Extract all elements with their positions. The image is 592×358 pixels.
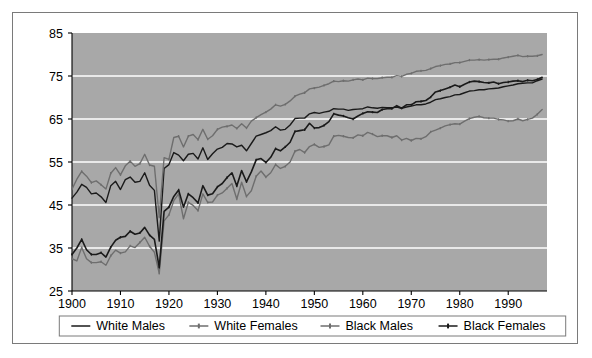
x-axis-label-1930: 1930 <box>204 297 232 311</box>
chart-legend: White MalesWhite FemalesBlack MalesBlack… <box>59 316 565 336</box>
x-axis-label-1910: 1910 <box>107 297 135 311</box>
x-axis-label-1970: 1970 <box>397 297 425 311</box>
y-axis-label-55: 55 <box>49 156 63 170</box>
chart-plot-wrapper: 25354555657585 1900191019201930194019501… <box>13 13 579 345</box>
x-axis-tick-labels: 1900191019201930194019501960197019801990 <box>58 297 522 311</box>
legend-item-label: Black Males <box>346 319 413 333</box>
legend-item-label: Black Females <box>464 319 546 333</box>
legend-item-label: White Males <box>96 319 165 333</box>
x-axis-label-1960: 1960 <box>349 297 377 311</box>
chart-frame: 25354555657585 1900191019201930194019501… <box>12 12 578 344</box>
y-axis-label-75: 75 <box>49 70 63 84</box>
x-axis <box>72 291 547 295</box>
y-axis-label-45: 45 <box>49 199 63 213</box>
x-axis-label-1900: 1900 <box>58 297 86 311</box>
life-expectancy-line-chart: 25354555657585 1900191019201930194019501… <box>13 13 579 345</box>
y-axis-label-35: 35 <box>49 242 63 256</box>
x-axis-label-1990: 1990 <box>494 297 522 311</box>
legend-item-label: White Females <box>214 319 297 333</box>
x-axis-label-1950: 1950 <box>300 297 328 311</box>
y-axis-tick-labels: 25354555657585 <box>49 27 63 299</box>
y-axis-label-85: 85 <box>49 27 63 41</box>
y-axis-label-65: 65 <box>49 113 63 127</box>
x-axis-label-1920: 1920 <box>155 297 183 311</box>
x-axis-label-1940: 1940 <box>252 297 280 311</box>
y-axis <box>68 33 72 291</box>
x-axis-label-1980: 1980 <box>446 297 474 311</box>
